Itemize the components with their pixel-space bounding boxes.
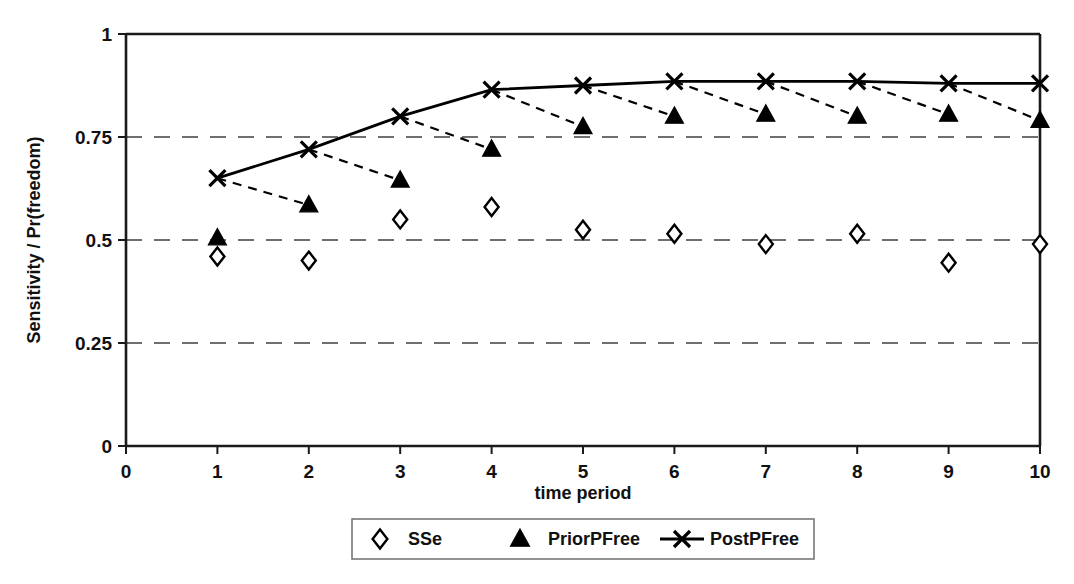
connector-line	[949, 83, 1040, 120]
connector-line	[583, 86, 674, 117]
legend-label: SSe	[408, 529, 442, 549]
data-point-sse	[393, 210, 407, 228]
x-tick-label: 6	[669, 461, 680, 482]
y-tick-label: 0.75	[75, 127, 112, 148]
data-point-priorpfree	[208, 228, 226, 244]
x-tick-label: 4	[486, 461, 497, 482]
chart-legend: SSePriorPFreePostPFree	[352, 519, 814, 559]
data-point-sse	[485, 198, 499, 216]
y-tick-label: 0.5	[86, 230, 113, 251]
y-tick-labels: 00.250.50.751	[75, 24, 112, 457]
y-tick-label: 0.25	[75, 333, 112, 354]
x-tick-label: 9	[943, 461, 954, 482]
data-point-postpfree	[301, 141, 317, 157]
data-point-priorpfree	[1031, 111, 1049, 127]
x-tick-label: 3	[395, 461, 406, 482]
legend-item-sse[interactable]: SSe	[373, 529, 442, 549]
data-point-priorpfree	[665, 107, 683, 123]
chart-svg: 00.250.50.751 012345678910 Sensitivity /…	[0, 0, 1074, 584]
y-tick-label: 0	[101, 436, 112, 457]
data-point-priorpfree	[940, 105, 958, 121]
connector-line	[766, 81, 857, 116]
y-axis-title: Sensitivity / Pr(freedom)	[24, 136, 44, 343]
connector-line	[857, 81, 948, 114]
x-tick-label: 0	[121, 461, 132, 482]
legend-label: PriorPFree	[548, 529, 640, 549]
data-point-sse	[1033, 235, 1047, 253]
x-tick-label: 8	[852, 461, 863, 482]
x-tick-label: 2	[304, 461, 315, 482]
data-point-sse	[210, 247, 224, 265]
connector-line	[400, 116, 491, 149]
data-point-priorpfree	[483, 140, 501, 156]
x-tick-label: 1	[212, 461, 223, 482]
series-lines	[217, 81, 1040, 178]
data-point-priorpfree	[757, 105, 775, 121]
data-point-sse	[942, 254, 956, 272]
connector-line	[217, 178, 308, 205]
series-priorpfree	[208, 105, 1049, 245]
chart-container: 00.250.50.751 012345678910 Sensitivity /…	[0, 0, 1074, 584]
data-point-priorpfree	[574, 117, 592, 133]
connector-line	[309, 149, 400, 180]
x-tick-label: 10	[1029, 461, 1050, 482]
data-point-postpfree	[209, 170, 225, 186]
x-tick-label: 7	[761, 461, 772, 482]
data-point-priorpfree	[391, 171, 409, 187]
series-markers	[208, 73, 1049, 271]
y-tick-label: 1	[101, 24, 112, 45]
connector-line	[492, 90, 583, 127]
x-axis-title: time period	[534, 483, 631, 503]
series-line-postpfree	[217, 81, 1040, 178]
data-point-priorpfree	[848, 107, 866, 123]
x-tick-label: 5	[578, 461, 589, 482]
legend-label: PostPFree	[710, 529, 799, 549]
data-point-postpfree	[392, 108, 408, 124]
connector-lines	[217, 81, 1040, 205]
data-point-sse	[759, 235, 773, 253]
series-postpfree	[209, 73, 1048, 186]
data-point-sse	[302, 252, 316, 270]
x-tick-labels: 012345678910	[121, 461, 1051, 482]
data-point-sse	[576, 221, 590, 239]
series-sse	[210, 198, 1047, 272]
connector-line	[674, 81, 765, 114]
